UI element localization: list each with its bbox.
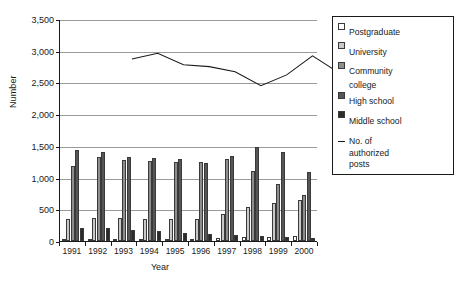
bar: [88, 239, 92, 241]
legend-item-label: No. of: [349, 136, 372, 147]
bar: [113, 239, 117, 241]
legend-item[interactable]: University: [338, 41, 449, 59]
y-axis-tick-label: 3,500: [31, 15, 54, 25]
legend-spacer: [338, 129, 449, 136]
x-axis-tick-label: 1996: [188, 246, 214, 256]
bar: [62, 239, 66, 241]
line-path: [132, 53, 364, 113]
x-axis-labels: 1991199219931994199519961997199819992000: [59, 246, 317, 256]
legend-swatch-icon: [338, 92, 345, 99]
y-axis-tick-label: 1,500: [31, 142, 54, 152]
legend-item-label: High school: [349, 96, 394, 106]
x-axis-tick-label: 1991: [59, 246, 85, 256]
x-axis-tick-label: 1992: [85, 246, 111, 256]
legend-item[interactable]: High school: [338, 90, 449, 108]
bar: [101, 152, 105, 241]
x-axis-tick-label: 1997: [214, 246, 240, 256]
legend-swatch-icon: [338, 23, 345, 30]
legend-swatch-icon: [338, 111, 345, 118]
bar: [75, 150, 79, 241]
legend-item-label-continued: posts: [349, 159, 449, 170]
y-axis-tick-label: 3,000: [31, 47, 54, 57]
x-axis-tick-label: 1998: [240, 246, 266, 256]
y-axis-title: Number: [8, 75, 18, 108]
bar: [92, 218, 96, 241]
plot-area: 05001,0001,5002,0002,5003,0003,500: [59, 20, 317, 242]
y-axis-tick-label: 2,000: [31, 110, 54, 120]
legend-item-label: Community: [349, 66, 392, 76]
legend-item-label: University: [349, 47, 387, 57]
legend-swatch-icon: [338, 42, 345, 49]
legend-item-label-continued: authorized: [349, 148, 449, 159]
bar: [97, 157, 101, 241]
x-axis-tick-label: 1999: [265, 246, 291, 256]
legend-item[interactable]: No. of: [338, 136, 449, 147]
y-axis-tick-label: 1,000: [31, 174, 54, 184]
y-axis-tick-label: 0: [49, 237, 54, 247]
x-axis-tick-label: 2000: [291, 246, 317, 256]
y-axis-tick-label: 500: [39, 205, 54, 215]
legend-item-label: Middle school: [349, 116, 402, 126]
x-axis-tick-label: 1995: [162, 246, 188, 256]
bar: [106, 228, 110, 241]
x-axis-title: Year: [0, 262, 320, 272]
legend-line-icon: [338, 141, 345, 142]
bar: [71, 166, 75, 241]
bar-group: [60, 20, 86, 241]
bar: [66, 219, 70, 241]
legend-item-label: Postgraduate: [349, 27, 400, 37]
legend-item[interactable]: Community: [338, 60, 449, 78]
legend-item-label-continued: college: [349, 80, 449, 91]
x-axis-tick-label: 1993: [111, 246, 137, 256]
y-axis-tick-label: 2,500: [31, 78, 54, 88]
chart-legend: PostgraduateUniversityCommunitycollegeHi…: [332, 16, 454, 175]
x-axis-tick: [317, 242, 318, 246]
legend-item[interactable]: Middle school: [338, 110, 449, 128]
bar-group: [86, 20, 112, 241]
bar-line-chart: Number Year 05001,0001,5002,0002,5003,00…: [0, 0, 462, 282]
x-axis-tick-label: 1994: [136, 246, 162, 256]
legend-item[interactable]: Postgraduate: [338, 21, 449, 39]
bar: [80, 228, 84, 241]
legend-swatch-icon: [338, 62, 345, 69]
